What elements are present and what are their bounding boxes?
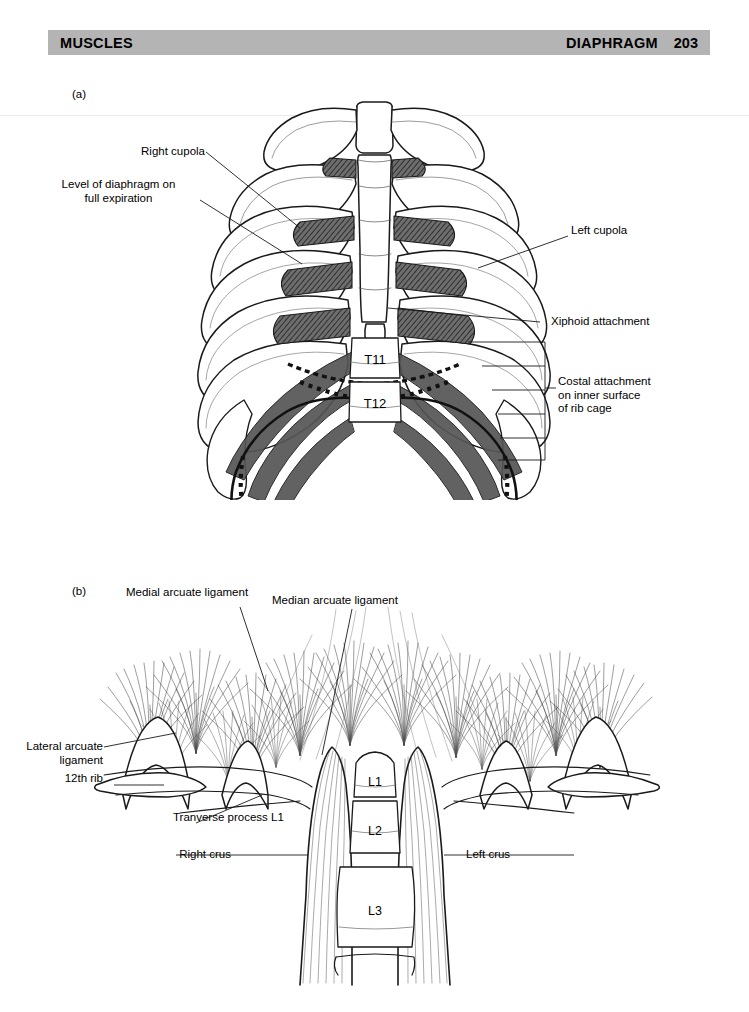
header-topic-title: DIAPHRAGM xyxy=(566,35,658,51)
running-header: MUSCLES DIAPHRAGM 203 xyxy=(48,30,710,55)
label-right-crus: Right crus xyxy=(160,848,231,862)
textbook-page: MUSCLES DIAPHRAGM 203 (a) xyxy=(0,0,749,1012)
vertebra-t11-text: T11 xyxy=(364,352,385,367)
label-transverse-process-l1: Tranverse process L1 xyxy=(173,811,284,825)
vertebra-l1-text: L1 xyxy=(368,775,382,789)
label-costal-attachment: Costal attachment on inner surface of ri… xyxy=(558,375,651,416)
figure-a-letter: (a) xyxy=(72,88,86,100)
label-median-arcuate-ligament: Median arcuate ligament xyxy=(272,594,398,608)
label-lateral-arcuate-ligament: Lateral arcuate ligament xyxy=(10,740,103,767)
vertebra-t12-text: T12 xyxy=(364,396,386,411)
vertebra-l3-text: L3 xyxy=(368,904,382,918)
label-left-cupola: Left cupola xyxy=(571,224,627,238)
label-left-crus: Left crus xyxy=(466,848,510,862)
label-xiphoid-attachment: Xiphoid attachment xyxy=(551,315,649,329)
page-number: 203 xyxy=(674,35,698,51)
label-level-of-diaphragm: Level of diaphragm on full expiration xyxy=(36,178,201,205)
label-medial-arcuate-ligament: Medial arcuate ligament xyxy=(126,586,248,600)
figure-a-illustration: T11 T12 xyxy=(0,100,749,500)
header-section-title: MUSCLES xyxy=(60,35,133,51)
vertebra-l2-text: L2 xyxy=(368,824,382,838)
label-twelfth-rib: 12th rib xyxy=(10,772,103,786)
label-right-cupola: Right cupola xyxy=(20,145,205,159)
figure-b-illustration: L1 L2 L3 xyxy=(0,595,749,995)
